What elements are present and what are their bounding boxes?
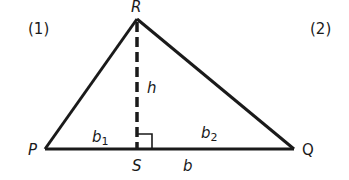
side-rq	[137, 19, 294, 149]
figure-number-left: (1)	[28, 20, 49, 38]
vertex-q-label: Q	[302, 141, 314, 159]
segment-b2-label: b2	[201, 124, 218, 144]
figure-number-right: (2)	[310, 20, 331, 38]
vertex-s-label: S	[132, 157, 142, 175]
height-label: h	[147, 79, 157, 97]
base-b-label: b	[183, 157, 193, 175]
vertex-p-label: P	[28, 141, 38, 159]
segment-b1-label: b1	[92, 128, 109, 148]
vertex-r-label: R	[131, 0, 141, 16]
triangle-diagram: (1) (2) R P Q S h b1 b2 b	[0, 0, 349, 180]
right-angle-mark	[137, 134, 152, 149]
side-pr	[45, 19, 137, 149]
